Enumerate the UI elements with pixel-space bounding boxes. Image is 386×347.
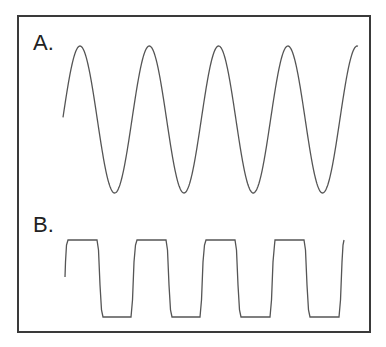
sine-waveform xyxy=(63,46,358,193)
waveforms-canvas xyxy=(0,0,386,347)
square-waveform xyxy=(65,240,344,317)
